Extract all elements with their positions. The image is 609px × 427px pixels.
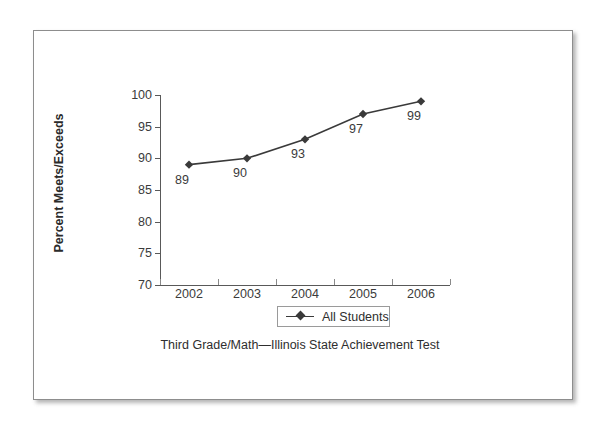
y-axis-tick: [155, 127, 160, 128]
y-axis-tick-label-wrap: 80: [120, 216, 152, 228]
x-axis-tick-label: 2005: [334, 288, 392, 301]
y-axis-tick-label: 85: [122, 184, 152, 197]
y-axis-tick-label-wrap: 90: [120, 152, 152, 164]
y-axis-tick-label: 100: [122, 89, 152, 102]
data-point-marker: [243, 154, 251, 162]
x-axis-tick-label: 2003: [218, 288, 276, 301]
chart-caption: Third Grade/Math—Illinois State Achievem…: [60, 339, 540, 353]
line-chart-figure: 707580859095100 20022003200420052006 Per…: [0, 0, 609, 427]
data-point-value-label: 93: [283, 148, 313, 161]
x-axis-tick-label: 2004: [276, 288, 334, 301]
y-axis-tick-label: 80: [122, 216, 152, 229]
x-axis-tick: [392, 279, 393, 285]
y-axis-tick: [155, 190, 160, 191]
y-axis-tick: [155, 158, 160, 159]
x-axis-line: [160, 285, 450, 286]
data-point-value-label: 97: [341, 123, 371, 136]
y-axis-tick-label-wrap: 75: [120, 247, 152, 259]
y-axis-tick-label: 95: [122, 121, 152, 134]
legend-diamond-marker-icon: [296, 311, 306, 321]
x-axis-tick-label: 2006: [392, 288, 450, 301]
y-axis-tick-label: 90: [122, 152, 152, 165]
x-axis-tick-label: 2002: [160, 288, 218, 301]
x-axis-tick: [160, 279, 161, 285]
y-axis-title: Percent Meets/Exceeds: [52, 88, 66, 278]
series-plot: [0, 0, 609, 427]
y-axis-tick-label-wrap: 100: [120, 89, 152, 101]
y-axis-tick-label: 70: [122, 279, 152, 292]
y-axis-tick-label-wrap: 95: [120, 121, 152, 133]
legend-label-all-students: All Students: [322, 311, 389, 324]
data-point-value-label: 90: [225, 167, 255, 180]
data-point-marker: [417, 97, 425, 105]
x-axis-tick: [450, 279, 451, 285]
y-axis-tick: [155, 253, 160, 254]
y-axis-tick: [155, 95, 160, 96]
y-axis-tick: [155, 222, 160, 223]
chart-legend: All Students: [277, 306, 390, 327]
data-point-value-label: 89: [167, 174, 197, 187]
x-axis-tick: [334, 279, 335, 285]
y-axis-tick-label-wrap: 70: [120, 279, 152, 291]
x-axis-tick: [276, 279, 277, 285]
y-axis-tick-label-wrap: 85: [120, 184, 152, 196]
data-point-marker: [301, 135, 309, 143]
y-axis-line: [160, 95, 161, 286]
data-point-marker: [359, 110, 367, 118]
y-axis-tick-label: 75: [122, 247, 152, 260]
x-axis-tick: [218, 279, 219, 285]
y-axis-tick: [155, 285, 160, 286]
data-point-value-label: 99: [399, 110, 429, 123]
data-point-marker: [185, 160, 193, 168]
screenshot-page: 707580859095100 20022003200420052006 Per…: [0, 0, 609, 427]
